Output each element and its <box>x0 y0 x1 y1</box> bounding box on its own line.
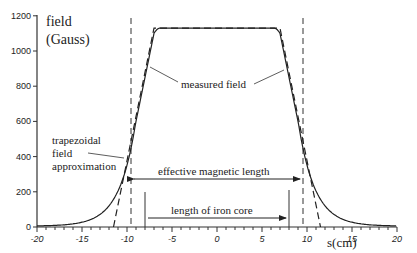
measured-field-curve <box>37 28 396 226</box>
svg-text:5: 5 <box>259 234 265 244</box>
y-label-line1: field <box>46 14 72 29</box>
svg-text:600: 600 <box>16 116 31 126</box>
measured-pointer-right <box>254 70 284 84</box>
svg-text:10: 10 <box>302 234 312 244</box>
iron-core-label: length of iron core <box>171 204 253 216</box>
svg-text:20: 20 <box>391 234 402 244</box>
svg-text:200: 200 <box>16 187 31 197</box>
trapezoid-label-1: trapezoidal <box>52 134 101 146</box>
effective-length-label: effective magnetic length <box>158 165 270 177</box>
measured-pointer-left <box>150 67 178 82</box>
svg-text:400: 400 <box>16 152 31 162</box>
svg-text:-10: -10 <box>120 234 133 244</box>
svg-text:-5: -5 <box>168 234 177 244</box>
svg-text:0: 0 <box>214 234 219 244</box>
svg-text:1200: 1200 <box>11 11 31 21</box>
field-chart: 020040060080010001200 -20-15-10-50510152… <box>0 0 417 253</box>
svg-text:0: 0 <box>26 222 31 232</box>
svg-text:-15: -15 <box>75 234 89 244</box>
trapezoid-label-2: field <box>52 147 73 159</box>
y-ticks: 020040060080010001200 <box>11 11 37 232</box>
y-label-line2: (Gauss) <box>46 32 90 48</box>
trapezoid-pointer <box>88 153 124 158</box>
trapezoid-label-3: approximation <box>52 160 117 172</box>
measured-field-label: measured field <box>181 78 247 90</box>
x-label: s(cm) <box>327 235 357 250</box>
svg-text:800: 800 <box>16 81 31 91</box>
svg-text:1000: 1000 <box>11 46 31 56</box>
svg-text:-20: -20 <box>30 234 43 244</box>
